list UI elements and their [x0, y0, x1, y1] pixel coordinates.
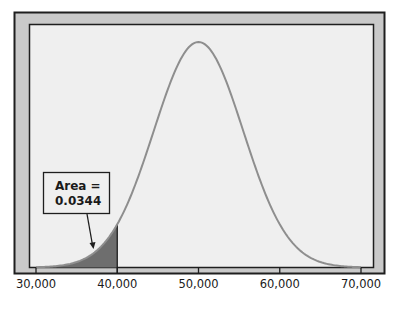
x-tick-label: 30,000: [16, 277, 56, 291]
annotation-line2: 0.0344: [55, 194, 101, 208]
x-tick-label: 60,000: [260, 277, 300, 291]
x-tick-label: 50,000: [178, 277, 218, 291]
plot-area: [30, 25, 374, 268]
x-tick-label: 40,000: [97, 277, 137, 291]
x-tick-label: 70,000: [341, 277, 381, 291]
normal-distribution-chart: 30,00040,00050,00060,00070,000 Area = 0.…: [0, 0, 396, 311]
annotation-line1: Area =: [55, 179, 101, 193]
